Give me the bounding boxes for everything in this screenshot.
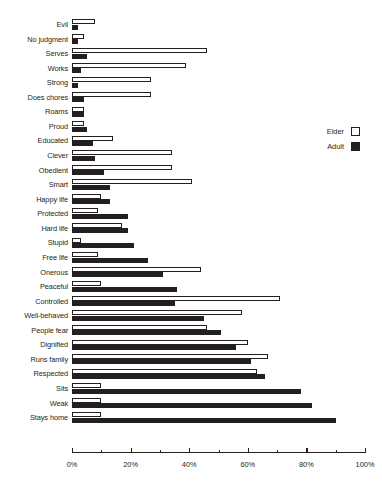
x-tick-label: 100% [345, 460, 382, 469]
bar-elder [72, 208, 98, 213]
chart-row: Evil [0, 18, 382, 33]
category-label: Free life [0, 251, 68, 266]
bar-elder [72, 194, 101, 199]
legend-swatch-adult [351, 142, 360, 151]
chart-row: Stupid [0, 236, 382, 251]
category-label: Protected [0, 207, 68, 222]
category-label: Sits [0, 382, 68, 397]
bar-adult [72, 156, 95, 161]
chart-row: Controlled [0, 295, 382, 310]
category-label: No judgment [0, 33, 68, 48]
chart-row: Onerous [0, 266, 382, 281]
bar-adult [72, 359, 251, 364]
x-tick-minor [336, 450, 337, 453]
bar-elder [72, 267, 201, 272]
bar-elder [72, 398, 101, 403]
category-label: Hard life [0, 222, 68, 237]
category-label: Dignified [0, 338, 68, 353]
bar-adult [72, 112, 84, 117]
x-tick-label: 80% [286, 460, 326, 469]
chart-row: No judgment [0, 33, 382, 48]
category-label: Strong [0, 76, 68, 91]
x-tick-major [72, 448, 73, 453]
category-label: Well-behaved [0, 309, 68, 324]
x-tick-major [131, 448, 132, 453]
x-tick-major [365, 448, 366, 453]
bar-adult [72, 214, 128, 219]
category-label: Runs family [0, 353, 68, 368]
chart-row: Hard life [0, 222, 382, 237]
bar-adult [72, 83, 78, 88]
bar-adult [72, 389, 301, 394]
bar-elder [72, 325, 207, 330]
bar-adult [72, 374, 265, 379]
bar-elder [72, 310, 242, 315]
category-label: Obedient [0, 164, 68, 179]
chart-row: Serves [0, 47, 382, 62]
bar-adult [72, 243, 134, 248]
chart-row: Peaceful [0, 280, 382, 295]
chart-row: Weak [0, 397, 382, 412]
category-label: Does chores [0, 91, 68, 106]
chart-row: Happy life [0, 193, 382, 208]
chart-row: Strong [0, 76, 382, 91]
bar-adult [72, 330, 221, 335]
bar-adult [72, 258, 148, 263]
x-tick-major [248, 448, 249, 453]
x-tick-label: 0% [52, 460, 92, 469]
bar-adult [72, 403, 312, 408]
bar-adult [72, 141, 93, 146]
bar-elder [72, 369, 257, 374]
x-tick-label: 20% [111, 460, 151, 469]
bar-elder [72, 48, 207, 53]
bar-elder [72, 238, 81, 243]
bar-elder [72, 19, 95, 24]
bar-elder [72, 136, 113, 141]
x-tick-minor [160, 450, 161, 453]
chart-row: Does chores [0, 91, 382, 106]
category-label: Proud [0, 120, 68, 135]
bar-adult [72, 97, 84, 102]
legend-label-elder: Elder [327, 126, 344, 137]
chart-row: Works [0, 62, 382, 77]
chart-row: Dignified [0, 338, 382, 353]
x-tick-minor [219, 450, 220, 453]
bar-adult [72, 287, 177, 292]
category-label: Serves [0, 47, 68, 62]
bar-adult [72, 127, 87, 132]
bar-adult [72, 272, 163, 277]
chart-row: Free life [0, 251, 382, 266]
chart-legend: Elder Adult [290, 126, 360, 156]
bar-elder [72, 34, 84, 39]
bar-adult [72, 301, 175, 306]
bar-elder [72, 281, 101, 286]
bar-elder [72, 165, 172, 170]
bar-elder [72, 121, 84, 126]
category-label: Roams [0, 105, 68, 120]
category-label: Stays home [0, 411, 68, 426]
chart-row: Runs family [0, 353, 382, 368]
chart-row: Smart [0, 178, 382, 193]
legend-item-adult: Adult [290, 141, 360, 156]
bar-adult [72, 54, 87, 59]
bar-elder [72, 354, 268, 359]
bar-adult [72, 345, 236, 350]
bar-elder [72, 383, 101, 388]
bar-adult [72, 25, 78, 30]
legend-item-elder: Elder [290, 126, 360, 141]
chart-row: Protected [0, 207, 382, 222]
bar-adult [72, 228, 128, 233]
legend-label-adult: Adult [327, 141, 344, 152]
bar-elder [72, 77, 151, 82]
bar-adult [72, 199, 110, 204]
horizontal-bar-chart: EvilNo judgmentServesWorksStrongDoes cho… [0, 0, 382, 485]
chart-row: Well-behaved [0, 309, 382, 324]
category-label: Educated [0, 134, 68, 149]
chart-row: People fear [0, 324, 382, 339]
category-label: Happy life [0, 193, 68, 208]
x-tick-label: 60% [228, 460, 268, 469]
bar-elder [72, 252, 98, 257]
bar-elder [72, 179, 192, 184]
bar-adult [72, 68, 81, 73]
bar-adult [72, 185, 110, 190]
